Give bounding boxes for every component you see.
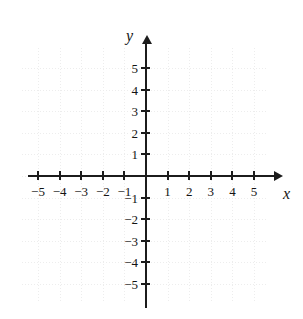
x-axis-tick [167, 171, 169, 180]
y-axis-tick-label: −4 [116, 256, 138, 269]
x-axis-tick [210, 171, 212, 180]
x-axis-tick-label: −4 [53, 185, 67, 198]
x-axis-tick [80, 171, 82, 180]
y-axis-arrowhead [142, 35, 152, 44]
y-axis-tick [141, 110, 150, 112]
y-axis-tick-label: −5 [116, 278, 138, 291]
x-axis-tick-label: 5 [251, 185, 258, 198]
x-axis-tick-label: −3 [74, 185, 88, 198]
x-axis-tick-label: −5 [31, 185, 45, 198]
x-axis-tick [59, 171, 61, 180]
y-axis-tick [141, 89, 150, 91]
y-axis-tick [141, 197, 150, 199]
y-axis-tick-label: 4 [116, 83, 138, 96]
x-axis-tick-label: 1 [164, 185, 171, 198]
x-axis-tick [37, 171, 39, 180]
y-axis-tick [141, 261, 150, 263]
x-axis-tick [102, 171, 104, 180]
y-axis-tick [141, 240, 150, 242]
y-axis-tick [141, 67, 150, 69]
x-axis-tick-label: 2 [186, 185, 193, 198]
x-axis-label: x [283, 186, 290, 202]
coordinate-plane-figure: −5−4−3−2−11234554321−1−2−3−4−5 x y [0, 0, 303, 319]
y-axis-tick [141, 218, 150, 220]
x-axis-tick [188, 171, 190, 180]
y-axis-tick-label: 3 [116, 105, 138, 118]
y-axis-line [145, 44, 147, 308]
x-axis-tick [253, 171, 255, 180]
y-axis-tick-label: 1 [116, 148, 138, 161]
x-axis-tick-label: 3 [208, 185, 215, 198]
x-axis-arrowhead [274, 171, 283, 181]
y-axis-tick [141, 283, 150, 285]
x-axis-line [28, 175, 278, 177]
y-axis-tick [141, 132, 150, 134]
y-axis-tick [141, 153, 150, 155]
y-axis-tick-label: 2 [116, 126, 138, 139]
y-axis-tick-label: −3 [116, 234, 138, 247]
x-axis-tick [123, 171, 125, 180]
y-axis-label: y [126, 28, 133, 44]
x-axis-tick-label: −2 [96, 185, 110, 198]
x-axis-tick-label: 4 [229, 185, 236, 198]
y-axis-tick-label: −2 [116, 213, 138, 226]
y-axis-tick-label: −1 [116, 191, 138, 204]
x-axis-tick [231, 171, 233, 180]
y-axis-tick-label: 5 [116, 62, 138, 75]
